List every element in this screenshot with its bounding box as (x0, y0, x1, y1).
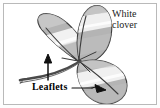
leaflet-lower-right-group (74, 54, 134, 108)
label-white-clover-line2: clover (112, 20, 137, 31)
petiole-stem (20, 62, 79, 83)
label-white-clover-line1: White (112, 9, 137, 20)
label-white-clover: White clover (112, 9, 137, 30)
label-leaflets: Leaflets (32, 82, 67, 93)
clover-figure: White clover Leaflets (0, 0, 160, 108)
